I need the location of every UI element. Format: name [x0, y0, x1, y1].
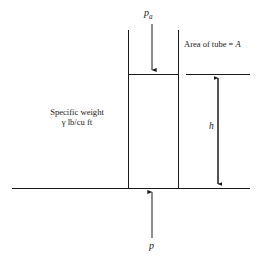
area-of-tube-text: Area of tube = — [184, 39, 236, 49]
atmospheric-pressure-subscript: a — [149, 13, 153, 21]
bottom-pressure-label: p — [149, 240, 154, 252]
atmospheric-pressure-label: pa — [144, 7, 153, 19]
area-of-tube-symbol: A — [236, 39, 241, 49]
height-label: h — [209, 121, 214, 132]
pressure-tube-diagram: pa Area of tube = A h Specific weight γ … — [0, 0, 276, 262]
specific-weight-line-1: Specific weight — [50, 107, 104, 117]
area-of-tube-label: Area of tube = A — [184, 40, 241, 50]
specific-weight-line-2: γ lb/cu ft — [25, 118, 129, 128]
specific-weight-label: Specific weight γ lb/cu ft — [25, 108, 129, 128]
